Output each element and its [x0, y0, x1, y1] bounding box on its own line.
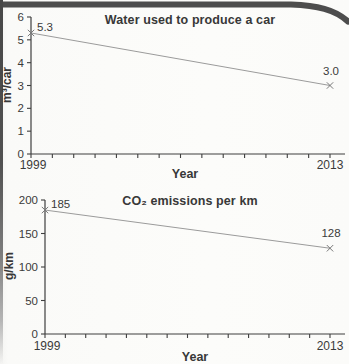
x-tick-label-end: 2013 — [317, 339, 344, 353]
chart1-plot-area: 0123456199920135.33.0 — [0, 0, 349, 185]
x-tick-label-start: 1999 — [20, 158, 47, 172]
chart2-plot-area: 05010015020019992013185128 — [0, 185, 349, 364]
data-line — [31, 33, 330, 86]
y-tick-label: 50 — [25, 295, 38, 307]
data-point-label: 185 — [51, 198, 70, 210]
y-tick-label: 1 — [18, 125, 24, 137]
data-point-label: 128 — [321, 227, 340, 239]
data-line — [45, 210, 330, 248]
y-tick-label: 150 — [19, 228, 38, 240]
y-tick-label: 6 — [18, 11, 24, 23]
y-tick-label: 2 — [18, 102, 24, 114]
scanned-book-page: Water used to produce a car m³/car Year … — [0, 0, 349, 364]
y-tick-label: 4 — [18, 57, 25, 69]
x-tick-label-end: 2013 — [317, 158, 344, 172]
data-point-label: 5.3 — [37, 21, 53, 33]
y-tick-label: 3 — [18, 80, 24, 92]
y-tick-label: 100 — [19, 261, 38, 273]
x-tick-label-start: 1999 — [34, 339, 61, 353]
y-tick-label: 5 — [18, 34, 24, 46]
data-point-label: 3.0 — [323, 65, 339, 77]
y-tick-label: 200 — [19, 194, 38, 206]
